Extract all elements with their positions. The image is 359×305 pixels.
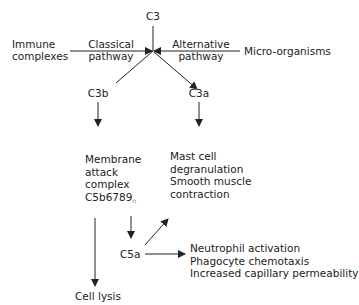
mac-line-1: Membrane bbox=[85, 153, 141, 166]
c5a-label: C5a bbox=[120, 248, 140, 260]
alternative-pathway-line-2: pathway bbox=[166, 50, 236, 62]
c5a-effect-1: Neutrophil activation bbox=[190, 242, 359, 255]
mac-line-4: C5b6789n bbox=[85, 191, 141, 208]
c3a-effects-label: Mast cell degranulation Smooth muscle co… bbox=[170, 150, 251, 200]
c3a-effect-1: Mast cell bbox=[170, 150, 251, 163]
classical-pathway-line-2: pathway bbox=[78, 50, 144, 62]
immune-complexes-line-1: Immune bbox=[12, 38, 68, 50]
mac-line-2: attack bbox=[85, 166, 141, 179]
c5a-effects-label: Neutrophil activation Phagocyte chemotax… bbox=[190, 242, 359, 280]
mac-line-3: complex bbox=[85, 178, 141, 191]
mac-subscript: n bbox=[132, 197, 136, 204]
classical-pathway-label: Classical pathway bbox=[78, 38, 144, 62]
alternative-pathway-label: Alternative pathway bbox=[166, 38, 236, 62]
micro-organisms-label: Micro-organisms bbox=[244, 45, 331, 57]
c3a-label: C3a bbox=[184, 87, 214, 99]
membrane-attack-complex-label: Membrane attack complex C5b6789n bbox=[85, 153, 141, 207]
cell-lysis-label: Cell lysis bbox=[75, 290, 121, 302]
c3a-effect-4: contraction bbox=[170, 188, 251, 201]
classical-pathway-line-1: Classical bbox=[78, 38, 144, 50]
immune-complexes-line-2: complexes bbox=[12, 50, 68, 62]
c3b-label: C3b bbox=[83, 87, 113, 99]
c5a-to-mast-cell-arrow bbox=[145, 219, 168, 245]
c3-label: C3 bbox=[138, 10, 168, 22]
c3a-effect-3: Smooth muscle bbox=[170, 175, 251, 188]
c3a-effect-2: degranulation bbox=[170, 163, 251, 176]
alternative-pathway-line-1: Alternative bbox=[166, 38, 236, 50]
c5a-effect-3: Increased capillary permeability bbox=[190, 267, 359, 280]
mac-formula: C5b6789 bbox=[85, 191, 132, 203]
c5a-effect-2: Phagocyte chemotaxis bbox=[190, 255, 359, 268]
immune-complexes-label: Immune complexes bbox=[12, 38, 68, 62]
